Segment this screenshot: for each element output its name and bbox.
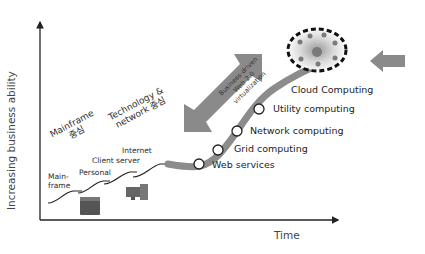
step-personal: Personal [79,168,111,177]
step-client-server: Client server [92,156,140,165]
mainframe-icon [80,197,100,215]
left-arrow-icon [370,50,405,72]
step-internet: Internet [122,146,152,155]
step-mainframe: Main- frame [48,172,70,190]
node-utility-computing [254,104,264,114]
computer-icon [126,184,148,200]
stage-network-computing: Network computing [250,125,343,136]
stage-grid-computing: Grid computing [234,143,308,154]
x-axis-label: Time [274,229,300,241]
stage-utility-computing: Utility computing [273,103,355,114]
step-mainframe-label: Main- [48,172,70,181]
node-web-services [194,159,204,169]
step-mainframe-label2: frame [48,181,70,190]
cloud-icon [288,29,346,71]
stage-cloud-computing: Cloud Computing [291,84,373,95]
node-network-computing [232,126,242,136]
y-axis-label: Increasing business ability [5,71,17,210]
stage-web-services: Web services [212,159,275,170]
node-grid-computing [213,145,223,155]
diagram-canvas: Increasing business ability Time Mainfra… [0,0,425,254]
